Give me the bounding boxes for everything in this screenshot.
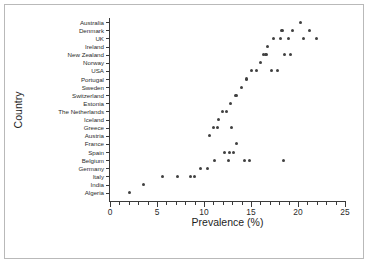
- y-axis-title-label: Country: [12, 91, 24, 128]
- y-tick-denmark: Denmark: [110, 30, 111, 31]
- data-point: [235, 142, 238, 145]
- y-tick-new-zealand: New Zealand: [110, 55, 111, 56]
- y-tick-usa: USA: [110, 71, 111, 72]
- data-point: [128, 191, 131, 194]
- y-tick-label: The Netherlands: [58, 109, 104, 115]
- y-tick-the-netherlands: The Netherlands: [110, 111, 111, 112]
- y-tick-sweden: Sweden: [110, 87, 111, 88]
- y-tick-mark: [106, 79, 110, 80]
- data-point: [299, 21, 302, 24]
- y-tick-label: Austria: [85, 133, 104, 139]
- data-point: [308, 29, 311, 32]
- data-point: [216, 126, 219, 129]
- y-tick-mark: [106, 47, 110, 48]
- data-point: [302, 37, 305, 40]
- data-point: [225, 110, 228, 113]
- y-tick-portugal: Portugal: [110, 79, 111, 80]
- data-point: [266, 45, 269, 48]
- data-point: [264, 53, 267, 56]
- y-tick-mark: [106, 103, 110, 104]
- y-tick-mark: [106, 87, 110, 88]
- y-tick-mark: [106, 136, 110, 137]
- data-point: [208, 134, 211, 137]
- y-tick-mark: [106, 120, 110, 121]
- y-tick-label: Spain: [88, 149, 104, 155]
- x-tick-minor: [336, 202, 337, 205]
- y-tick-mark: [106, 144, 110, 145]
- y-tick-label: UK: [95, 36, 104, 42]
- data-point: [228, 151, 231, 154]
- figure-container: Country AustraliaDenmarkUKIrelandNew Zea…: [0, 0, 369, 264]
- y-tick-label: Australia: [80, 20, 104, 26]
- y-tick-greece: Greece: [110, 128, 111, 129]
- y-tick-mark: [106, 128, 110, 129]
- y-tick-label: Greece: [84, 125, 104, 131]
- y-tick-germany: Germany: [110, 168, 111, 169]
- data-point: [199, 167, 202, 170]
- data-point: [232, 151, 235, 154]
- y-tick-label: Algeria: [85, 190, 104, 196]
- y-tick-australia: Australia: [110, 22, 111, 23]
- y-tick-label: France: [85, 141, 104, 147]
- data-point: [282, 159, 285, 162]
- data-point: [289, 53, 292, 56]
- y-tick-algeria: Algeria: [110, 193, 111, 194]
- y-tick-mark: [106, 22, 110, 23]
- data-point: [287, 37, 290, 40]
- x-tick-minor: [289, 202, 290, 205]
- y-tick-belgium: Belgium: [110, 160, 111, 161]
- x-tick-minor: [176, 202, 177, 205]
- data-point: [272, 37, 275, 40]
- y-tick-label: Estonia: [83, 101, 104, 107]
- x-tick-minor: [232, 202, 233, 205]
- data-point: [223, 151, 226, 154]
- data-point: [161, 175, 164, 178]
- y-tick-label: Switzerland: [72, 93, 104, 99]
- data-point: [279, 37, 282, 40]
- x-tick-minor: [317, 202, 318, 205]
- y-tick-label: Italy: [93, 174, 104, 180]
- y-tick-mark: [106, 95, 110, 96]
- x-tick-minor: [195, 202, 196, 205]
- data-point: [270, 69, 273, 72]
- data-point: [259, 61, 262, 64]
- data-point: [283, 53, 286, 56]
- x-tick-minor: [213, 202, 214, 205]
- y-tick-label: Germany: [79, 166, 104, 172]
- y-tick-label: India: [91, 182, 104, 188]
- data-point: [240, 86, 243, 89]
- y-tick-mark: [106, 38, 110, 39]
- data-point: [280, 29, 283, 32]
- x-tick-minor: [326, 202, 327, 205]
- y-tick-mark: [106, 168, 110, 169]
- data-point: [255, 69, 258, 72]
- y-tick-mark: [106, 55, 110, 56]
- y-tick-mark: [106, 176, 110, 177]
- y-tick-spain: Spain: [110, 152, 111, 153]
- y-tick-label: Iceland: [84, 117, 104, 123]
- data-point: [217, 118, 220, 121]
- data-point: [229, 102, 232, 105]
- y-tick-label: New Zealand: [68, 52, 104, 58]
- x-tick-minor: [223, 202, 224, 205]
- data-point: [142, 183, 145, 186]
- x-tick-minor: [185, 202, 186, 205]
- y-tick-label: Portugal: [81, 76, 104, 82]
- y-tick-austria: Austria: [110, 136, 111, 137]
- data-point: [250, 69, 253, 72]
- data-point: [176, 175, 179, 178]
- y-tick-switzerland: Switzerland: [110, 95, 111, 96]
- data-point: [212, 126, 215, 129]
- y-tick-mark: [106, 193, 110, 194]
- y-tick-mark: [106, 30, 110, 31]
- y-tick-norway: Norway: [110, 63, 111, 64]
- y-tick-label: Sweden: [82, 85, 104, 91]
- data-point: [189, 175, 192, 178]
- y-tick-label: Denmark: [79, 28, 104, 34]
- data-point: [193, 175, 196, 178]
- data-point: [213, 159, 216, 162]
- x-tick-minor: [129, 202, 130, 205]
- data-point: [245, 77, 248, 80]
- data-point: [315, 37, 318, 40]
- y-tick-mark: [106, 160, 110, 161]
